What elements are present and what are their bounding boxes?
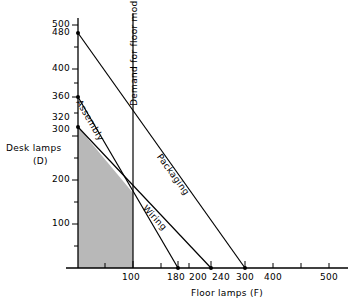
x-tick-label-100: 100 — [122, 272, 140, 282]
y-tick-label-200: 200 — [44, 174, 70, 184]
x-tick-label-240: 240 — [212, 272, 230, 282]
demand-line-label: Demand for floor models — [129, 0, 139, 106]
packaging-f-intercept-marker — [243, 266, 247, 270]
y-axis-title-line1: Desk lamps — [6, 143, 61, 153]
wiring-d-intercept-marker — [76, 125, 80, 129]
x-tick-label-300: 300 — [236, 272, 254, 282]
y-tick-label-400: 400 — [44, 63, 70, 73]
x-axis-ticks — [105, 261, 329, 268]
y-axis-title-line2: (D) — [33, 156, 48, 166]
y-tick-label-100: 100 — [44, 218, 70, 228]
y-axis-ticks — [72, 25, 78, 246]
x-tick-label-200: 200 — [189, 272, 207, 282]
y-tick-label-300: 300 — [44, 124, 70, 134]
wiring-f-intercept-marker — [209, 266, 213, 270]
linear-programming-chart: 500 480 400 360 320 300 200 100 100 180 … — [0, 0, 352, 303]
x-tick-label-180: 180 — [167, 272, 185, 282]
feasible-region-shading — [78, 127, 133, 268]
y-tick-label-480: 480 — [44, 27, 70, 37]
x-axis-title: Floor lamps (F) — [191, 288, 263, 298]
x-tick-label-400: 400 — [264, 272, 282, 282]
assembly-d-intercept-marker — [76, 95, 80, 99]
y-tick-label-320: 320 — [44, 112, 70, 122]
assembly-f-intercept-marker — [176, 266, 180, 270]
packaging-d-intercept-marker — [76, 31, 80, 35]
y-tick-label-360: 360 — [44, 91, 70, 101]
x-tick-label-500: 500 — [320, 272, 338, 282]
